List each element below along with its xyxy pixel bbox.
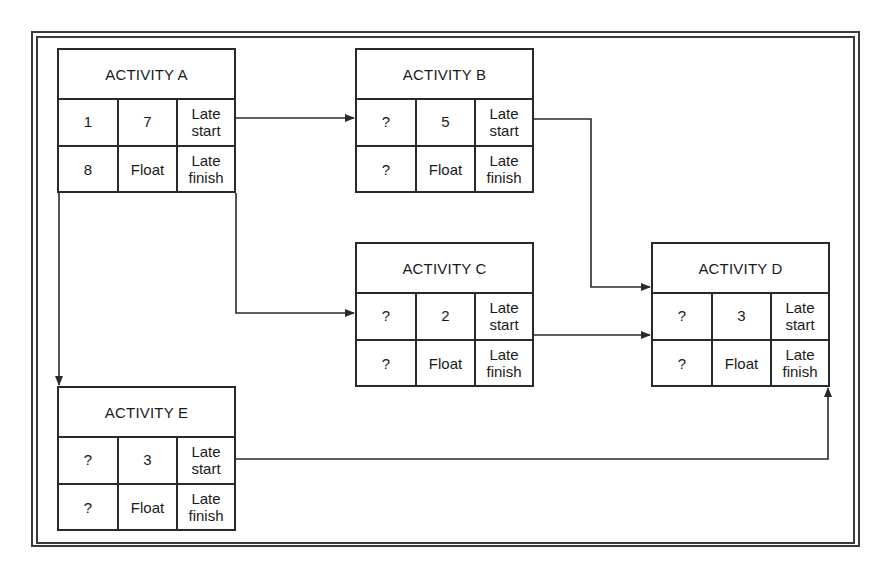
late-start-label: Late start <box>178 98 234 145</box>
activity-title: ACTIVITY D <box>653 244 828 294</box>
activity-node-c: ACTIVITY C ? 2 Late start ? Float Late f… <box>355 242 534 387</box>
activity-node-b: ACTIVITY B ? 5 Late start ? Float Late f… <box>355 48 534 193</box>
activity-node-e: ACTIVITY E ? 3 Late start ? Float Late f… <box>57 386 236 531</box>
activity-node-d: ACTIVITY D ? 3 Late start ? Float Late f… <box>651 242 830 387</box>
early-start: 1 <box>59 98 119 145</box>
activity-title: ACTIVITY A <box>59 50 234 100</box>
early-finish: ? <box>357 341 417 385</box>
float-label: Float <box>119 147 178 191</box>
float-label: Float <box>417 147 476 191</box>
early-finish: ? <box>59 485 119 529</box>
duration: 5 <box>417 98 476 145</box>
late-finish-label: Late finish <box>178 147 234 191</box>
float-label: Float <box>713 341 772 385</box>
late-finish-label: Late finish <box>476 147 532 191</box>
early-finish: ? <box>357 147 417 191</box>
edge-e-d <box>236 388 828 459</box>
late-start-label: Late start <box>476 292 532 339</box>
early-start: ? <box>357 292 417 339</box>
duration: 7 <box>119 98 178 145</box>
late-start-label: Late start <box>476 98 532 145</box>
early-start: ? <box>357 98 417 145</box>
late-start-label: Late start <box>772 292 828 339</box>
activity-title: ACTIVITY B <box>357 50 532 100</box>
activity-title: ACTIVITY E <box>59 388 234 438</box>
duration: 2 <box>417 292 476 339</box>
duration: 3 <box>713 292 772 339</box>
late-start-label: Late start <box>178 436 234 483</box>
edge-b-d <box>534 119 650 287</box>
edge-a-c <box>236 193 354 313</box>
activity-node-a: ACTIVITY A 1 7 Late start 8 Float Late f… <box>57 48 236 193</box>
early-finish: 8 <box>59 147 119 191</box>
float-label: Float <box>119 485 178 529</box>
early-start: ? <box>653 292 713 339</box>
activity-title: ACTIVITY C <box>357 244 532 294</box>
late-finish-label: Late finish <box>772 341 828 385</box>
late-finish-label: Late finish <box>178 485 234 529</box>
early-start: ? <box>59 436 119 483</box>
duration: 3 <box>119 436 178 483</box>
late-finish-label: Late finish <box>476 341 532 385</box>
early-finish: ? <box>653 341 713 385</box>
float-label: Float <box>417 341 476 385</box>
